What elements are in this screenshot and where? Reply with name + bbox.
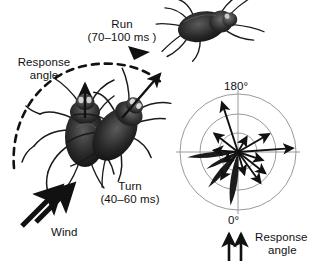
polar-vector: [238, 134, 269, 152]
polar-vector: [238, 152, 261, 183]
polar-bottom-angle-label: 0°: [228, 214, 239, 227]
polar-vectors: [214, 102, 293, 183]
polar-grid: [176, 90, 300, 214]
wind-arrows: [22, 186, 72, 226]
polar-legend-line2: angle: [268, 244, 297, 257]
turn-label-line1: Turn: [92, 180, 168, 193]
run-arrow: [122, 74, 160, 118]
polar-petal: [230, 152, 239, 205]
run-label-line2: (70–100 ms ): [76, 31, 168, 44]
polar-vector: [214, 133, 238, 152]
response-angle-label-line2: angle: [6, 69, 82, 82]
run-wedge: [128, 46, 150, 60]
polar-vector: [238, 152, 244, 174]
polar-top-angle-label: 180°: [224, 80, 248, 93]
response-angle-label-line1: Response: [6, 56, 82, 69]
polar-vector: [238, 152, 263, 160]
polar-petal: [208, 152, 238, 188]
polar-vector: [238, 137, 247, 152]
polar-petal: [187, 152, 238, 159]
run-label-line1: Run: [76, 18, 168, 31]
polar-vector: [238, 148, 293, 152]
figure-root: Response angle Run (70–100 ms ) Turn (40…: [0, 0, 314, 264]
polar-petal: [206, 152, 238, 169]
polar-vector: [224, 152, 238, 162]
cockroach-running: [152, 0, 269, 67]
polar-vector: [221, 152, 238, 179]
turn-label-line2: (40–60 ms): [92, 193, 168, 206]
polar-wind-arrows: [229, 234, 241, 261]
polar-vector: [222, 102, 238, 152]
polar-vector: [214, 150, 238, 152]
polar-legend-line1: Response: [255, 231, 308, 244]
polar-petals: [187, 152, 238, 206]
polar-vector: [238, 152, 265, 173]
cockroach-initial: [22, 78, 128, 192]
wind-label: Wind: [51, 226, 78, 239]
